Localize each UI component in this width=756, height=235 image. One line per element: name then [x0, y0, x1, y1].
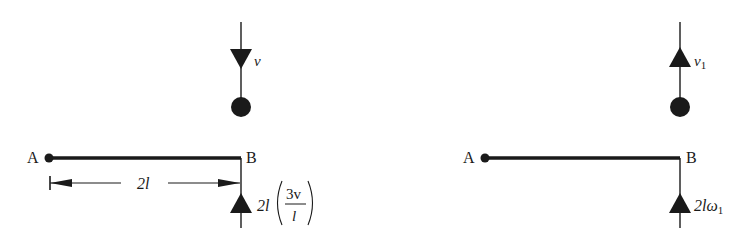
end-b-velocity-label: 2lω1 [694, 197, 723, 216]
after-panel: v1 A B 2lω1 [463, 22, 723, 228]
dimension-arrow-left-icon [50, 179, 72, 187]
before-panel: v A B 2l 2l 3v l [27, 22, 313, 228]
dimension-arrow-right-icon [218, 179, 240, 187]
pivot-a-dot [45, 154, 54, 163]
velocity-up-arrow-icon [669, 47, 691, 67]
dimension-label: 2l [137, 175, 150, 192]
point-a-label: A [27, 149, 39, 166]
right-paren [308, 181, 313, 225]
pivot-a-dot [481, 154, 490, 163]
particle-velocity-label: v [254, 53, 261, 69]
velocity-up-arrow-icon [230, 193, 252, 213]
velocity-up-arrow-icon [669, 193, 691, 213]
point-b-label: B [246, 149, 257, 166]
point-a-label: A [463, 149, 475, 166]
velocity-down-arrow-icon [230, 49, 252, 69]
collision-diagram: v A B 2l 2l 3v l v1 A B [0, 0, 756, 235]
point-b-label: B [686, 149, 697, 166]
left-paren [278, 181, 283, 225]
fraction-denominator: l [292, 208, 296, 224]
fraction-numerator: 3v [286, 186, 302, 202]
particle-ball [670, 97, 690, 117]
end-b-velocity-prefix: 2l [257, 197, 270, 214]
particle-ball [231, 97, 251, 117]
particle-velocity-label: v1 [694, 53, 706, 71]
